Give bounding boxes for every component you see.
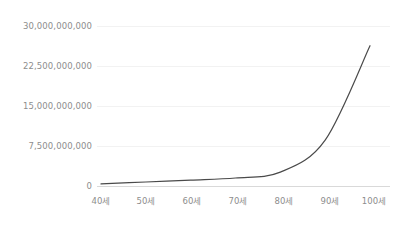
x-axis-labels: 40세 50세 60세 70세 80세 90세 100세 (0, 196, 399, 212)
x-tick-label: 60세 (182, 196, 201, 207)
x-tick-label: 80세 (274, 196, 293, 207)
y-tick-label: 30,000,000,000 (0, 22, 92, 31)
y-tick-label: 22,500,000,000 (0, 62, 92, 71)
series-line-chart (97, 18, 390, 190)
x-tick-label: 70세 (228, 196, 247, 207)
x-tick-label: 40세 (91, 196, 110, 207)
x-tick-label: 90세 (320, 196, 339, 207)
y-tick-label: 7,500,000,000 (0, 142, 92, 151)
y-tick-label: 0 (0, 182, 92, 191)
x-tick-label: 50세 (136, 196, 155, 207)
y-tick-label: 15,000,000,000 (0, 102, 92, 111)
series-path (101, 46, 370, 184)
chart-container: 30,000,000,000 22,500,000,000 15,000,000… (0, 0, 399, 230)
x-tick-label: 100세 (362, 196, 387, 207)
